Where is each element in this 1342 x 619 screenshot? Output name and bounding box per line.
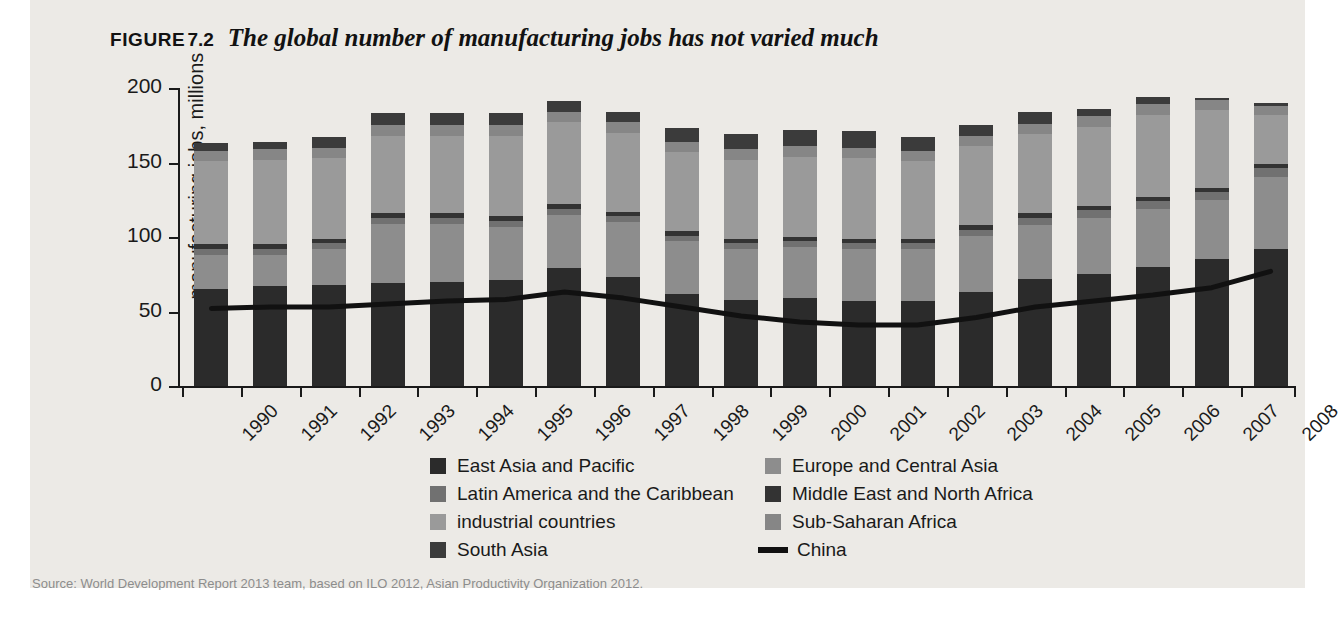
legend-item-latin-america-and-the-caribbean[interactable]: Latin America and the Caribbean (430, 480, 765, 508)
bar-segment (1195, 110, 1229, 187)
legend-color-swatch (430, 542, 446, 558)
bar-segment (1077, 116, 1111, 126)
bar-1997 (606, 112, 640, 386)
x-tick-label: 2004 (1062, 400, 1107, 445)
legend-color-swatch (430, 514, 446, 530)
legend-color-swatch (430, 458, 446, 474)
bar-segment (842, 301, 876, 386)
legend-color-swatch (765, 514, 781, 530)
bar-2008 (1254, 103, 1288, 386)
bar-segment (194, 143, 228, 150)
bar-2006 (1136, 97, 1170, 386)
x-tick-mark (829, 388, 831, 397)
x-tick-mark (712, 388, 714, 397)
x-tick-mark (888, 388, 890, 397)
x-tick-label: 2000 (826, 400, 871, 445)
bar-segment (1077, 210, 1111, 217)
bar-segment (783, 146, 817, 156)
bar-segment (901, 249, 935, 301)
bar-segment (547, 112, 581, 122)
bar-1995 (489, 113, 523, 386)
bar-segment (1195, 200, 1229, 260)
figure-title: FIGURE7.2The global number of manufactur… (110, 24, 879, 52)
legend-label: Europe and Central Asia (792, 455, 998, 477)
legend-item-industrial-countries[interactable]: industrial countries (430, 508, 765, 536)
bar-segment (371, 113, 405, 125)
bar-segment (1077, 109, 1111, 116)
bar-segment (1195, 192, 1229, 199)
legend-label: Sub-Saharan Africa (792, 511, 957, 533)
x-tick-label: 2002 (944, 400, 989, 445)
bar-segment (606, 133, 640, 212)
bar-segment (959, 136, 993, 146)
bar-segment (1254, 106, 1288, 115)
bar-segment (489, 280, 523, 386)
bar-segment (1018, 218, 1052, 225)
x-tick-label: 1997 (650, 400, 695, 445)
bar-1999 (724, 134, 758, 386)
x-tick-label: 1992 (355, 400, 400, 445)
bar-segment (312, 285, 346, 386)
bar-segment (253, 160, 287, 245)
legend-line-marker (758, 547, 788, 553)
bar-segment (1018, 134, 1052, 213)
bar-segment (253, 286, 287, 386)
bar-segment (1018, 225, 1052, 279)
bar-segment (194, 151, 228, 161)
x-tick-label: 2003 (1003, 400, 1048, 445)
bar-segment (959, 146, 993, 225)
bar-segment (665, 142, 699, 152)
y-tick-mark (169, 237, 178, 239)
chart-legend: East Asia and PacificEurope and Central … (430, 452, 1070, 564)
bar-segment (1077, 274, 1111, 386)
bar-2001 (842, 131, 876, 386)
legend-item-europe-and-central-asia[interactable]: Europe and Central Asia (765, 452, 1070, 480)
bar-1994 (430, 113, 464, 386)
x-tick-label: 1990 (238, 400, 283, 445)
bar-segment (901, 151, 935, 161)
bar-segment (1136, 115, 1170, 197)
y-tick-label: 150 (110, 149, 162, 173)
bar-segment (430, 224, 464, 282)
bar-segment (1077, 218, 1111, 275)
bar-segment (1254, 168, 1288, 177)
bar-segment (1195, 100, 1229, 110)
legend-item-china[interactable]: China (765, 536, 1070, 564)
bar-1993 (371, 113, 405, 386)
legend-color-swatch (765, 458, 781, 474)
bar-segment (665, 294, 699, 386)
bar-2002 (901, 137, 935, 386)
bar-2005 (1077, 109, 1111, 386)
legend-item-middle-east-and-north-africa[interactable]: Middle East and North Africa (765, 480, 1070, 508)
bar-segment (724, 300, 758, 386)
x-tick-mark (417, 388, 419, 397)
x-tick-label: 2005 (1120, 400, 1165, 445)
x-tick-mark (535, 388, 537, 397)
legend-item-east-asia-and-pacific[interactable]: East Asia and Pacific (430, 452, 765, 480)
x-tick-mark (476, 388, 478, 397)
bar-segment (959, 236, 993, 293)
bar-segment (312, 148, 346, 158)
chart-plot: manufacturing jobs, millions 05010015020… (178, 88, 1296, 388)
bar-segment (547, 268, 581, 386)
x-tick-label: 2007 (1238, 400, 1283, 445)
x-axis-line (178, 386, 1296, 388)
x-tick-label: 1991 (297, 400, 342, 445)
x-tick-label: 1993 (414, 400, 459, 445)
bar-1998 (665, 128, 699, 386)
bar-segment (1136, 104, 1170, 114)
legend-item-south-asia[interactable]: South Asia (430, 536, 765, 564)
y-tick-mark (169, 312, 178, 314)
bar-segment (1018, 112, 1052, 124)
legend-item-sub-saharan-africa[interactable]: Sub-Saharan Africa (765, 508, 1070, 536)
x-tick-mark (1294, 388, 1296, 397)
bar-segment (371, 125, 405, 135)
x-tick-mark (182, 388, 184, 397)
bar-segment (1136, 201, 1170, 208)
x-tick-mark (770, 388, 772, 397)
legend-color-swatch (765, 486, 781, 502)
bar-segment (959, 125, 993, 135)
bar-segment (901, 137, 935, 150)
legend-label: Middle East and North Africa (792, 483, 1033, 505)
bar-segment (430, 136, 464, 213)
